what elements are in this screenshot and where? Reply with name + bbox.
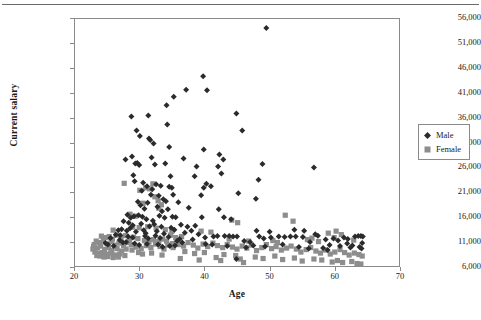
data-point [276, 234, 282, 240]
data-point [170, 192, 176, 198]
data-point [162, 160, 168, 166]
x-tick-mark [400, 267, 401, 271]
data-point [164, 122, 170, 128]
data-point [342, 250, 347, 255]
data-point [221, 252, 226, 257]
data-point [116, 254, 121, 259]
y-tick-mark [70, 242, 74, 243]
data-point [208, 230, 213, 235]
data-point [239, 128, 245, 134]
data-point [166, 144, 172, 150]
data-point [198, 192, 204, 198]
scatter-plot-points [74, 18, 400, 267]
x-tick-label: 30 [119, 272, 159, 281]
data-point [334, 229, 339, 234]
x-tick-label: 40 [184, 272, 224, 281]
data-point [152, 161, 158, 167]
y-tick-mark [70, 68, 74, 69]
chart-legend: Male Female [418, 124, 470, 160]
data-point [284, 245, 289, 250]
data-point [94, 253, 99, 258]
y-tick-label: 26,000 [419, 162, 481, 171]
data-point [195, 245, 200, 250]
data-point [234, 234, 240, 240]
data-point [140, 180, 146, 186]
data-point [141, 206, 147, 212]
data-point [188, 228, 194, 234]
data-point [121, 218, 127, 224]
data-point [263, 25, 269, 31]
data-point [186, 240, 191, 245]
y-tick-mark [70, 167, 74, 168]
data-point [216, 206, 222, 212]
y-tick-label: 16,000 [419, 212, 481, 221]
data-point [318, 250, 323, 255]
data-point [200, 73, 206, 79]
x-tick-mark [335, 267, 336, 271]
data-point [128, 114, 134, 120]
data-point [230, 244, 235, 249]
legend-label-female: Female [436, 145, 461, 154]
y-tick-mark [70, 143, 74, 144]
data-point [149, 154, 155, 160]
data-point [344, 241, 350, 247]
data-point [122, 253, 127, 258]
data-point [358, 261, 363, 266]
x-tick-mark [204, 267, 205, 271]
data-point [132, 178, 138, 184]
y-tick-label: 51,000 [419, 38, 481, 47]
data-point [279, 247, 284, 252]
square-marker-icon [423, 145, 432, 154]
data-point [327, 242, 333, 248]
y-tick-label: 6,000 [419, 262, 481, 271]
data-point [164, 102, 170, 108]
data-point [233, 111, 239, 117]
data-point [272, 253, 277, 258]
data-point [158, 183, 164, 189]
data-point [360, 253, 365, 258]
data-point [145, 113, 151, 119]
data-point [218, 258, 223, 263]
data-point [140, 251, 145, 256]
data-point [168, 173, 174, 179]
data-point [124, 246, 129, 251]
data-point [221, 214, 227, 220]
legend-item-female: Female [423, 142, 466, 156]
data-point [182, 249, 187, 254]
x-tick-label: 50 [250, 272, 290, 281]
data-point [332, 249, 337, 254]
data-point [216, 151, 222, 157]
data-point [105, 254, 110, 259]
data-point [293, 234, 299, 240]
x-tick-label: 20 [54, 272, 94, 281]
data-point [349, 259, 354, 264]
data-point [289, 243, 294, 248]
data-point [181, 155, 187, 161]
y-tick-mark [70, 118, 74, 119]
x-tick-mark [139, 267, 140, 271]
data-point [123, 156, 129, 162]
data-point [340, 260, 345, 265]
data-point [111, 255, 116, 260]
data-point [319, 257, 324, 262]
data-point [253, 196, 259, 202]
data-point [323, 237, 329, 243]
data-point [149, 250, 154, 255]
data-point [234, 246, 239, 251]
data-point [183, 87, 189, 93]
data-point [267, 229, 273, 235]
data-point [235, 190, 241, 196]
data-point [311, 164, 317, 170]
y-tick-label: 11,000 [419, 237, 481, 246]
data-point [165, 206, 171, 212]
data-point [352, 250, 357, 255]
data-point [287, 234, 293, 240]
data-point [194, 163, 200, 169]
data-point [218, 170, 224, 176]
data-point [201, 146, 207, 152]
data-point [235, 220, 240, 225]
data-point [191, 242, 196, 247]
data-point [316, 239, 321, 244]
data-point [260, 256, 265, 261]
data-point [192, 223, 198, 229]
